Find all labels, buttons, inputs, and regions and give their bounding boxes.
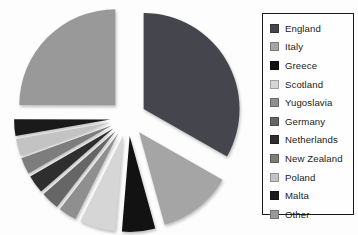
legend-label: Yugoslavia: [285, 97, 332, 108]
pie-chart: [0, 0, 258, 235]
legend: EnglandItalyGreeceScotlandYugoslaviaGerm…: [262, 13, 354, 215]
pie-slice-other: [19, 9, 115, 105]
legend-item-scotland: Scotland: [270, 75, 353, 94]
legend-item-italy: Italy: [270, 38, 353, 57]
legend-swatch: [270, 80, 279, 89]
legend-label: Scotland: [285, 79, 323, 90]
legend-swatch: [270, 24, 279, 33]
legend-item-england: England: [270, 19, 353, 38]
legend-label: Italy: [285, 41, 303, 52]
legend-swatch: [270, 117, 279, 126]
legend-swatch: [270, 210, 279, 219]
legend-swatch: [270, 191, 279, 200]
legend-item-yugoslavia: Yugoslavia: [270, 93, 353, 112]
pie-plot-area: [0, 0, 258, 235]
legend-label: Netherlands: [285, 134, 338, 145]
legend-item-greece: Greece: [270, 56, 353, 75]
legend-label: Other: [285, 209, 310, 220]
legend-swatch: [270, 61, 279, 70]
legend-label: New Zealand: [285, 153, 343, 164]
legend-swatch: [270, 173, 279, 182]
legend-item-new-zealand: New Zealand: [270, 149, 353, 168]
legend-item-germany: Germany: [270, 112, 353, 131]
legend-label: Poland: [285, 172, 315, 183]
legend-label: England: [285, 23, 321, 34]
legend-item-netherlands: Netherlands: [270, 131, 353, 150]
legend-swatch: [270, 98, 279, 107]
legend-swatch: [270, 135, 279, 144]
legend-label: Germany: [285, 116, 325, 127]
legend-label: Malta: [285, 190, 309, 201]
legend-item-other: Other: [270, 205, 353, 224]
legend-swatch: [270, 154, 279, 163]
legend-swatch: [270, 42, 279, 51]
pie-slice-england: [144, 13, 240, 156]
legend-item-poland: Poland: [270, 168, 353, 187]
pie-chart-figure: EnglandItalyGreeceScotlandYugoslaviaGerm…: [0, 0, 358, 235]
legend-label: Greece: [285, 60, 317, 71]
legend-item-malta: Malta: [270, 186, 353, 205]
